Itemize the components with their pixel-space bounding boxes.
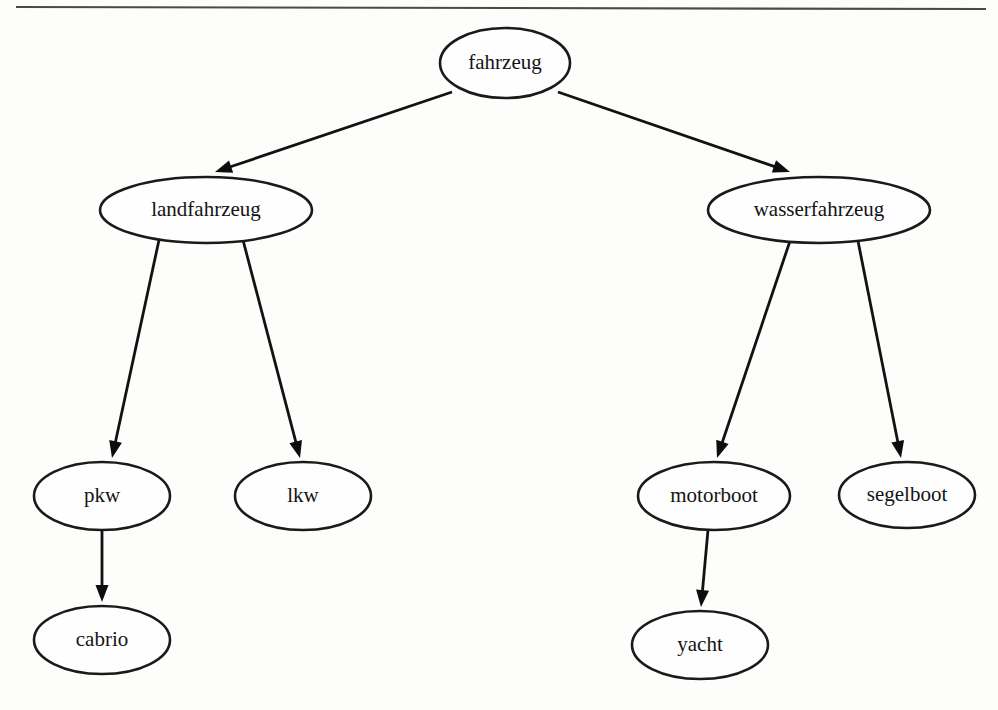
node-wasserfahrzeug[interactable]: wasserfahrzeug — [708, 177, 930, 243]
node-label: cabrio — [76, 627, 128, 651]
edge-line — [243, 240, 296, 444]
node-yacht[interactable]: yacht — [632, 611, 768, 679]
node-cabrio[interactable]: cabrio — [34, 606, 170, 674]
arrow-head-icon — [96, 585, 109, 602]
edge-line — [228, 92, 452, 168]
node-label: landfahrzeug — [151, 197, 261, 221]
arrow-head-icon — [891, 440, 904, 458]
edge-line — [558, 92, 777, 167]
diagram-page: fahrzeuglandfahrzeugwasserfahrzeugpkwlkw… — [0, 0, 998, 710]
top-rule — [16, 7, 986, 9]
nodes-layer: fahrzeuglandfahrzeugwasserfahrzeugpkwlkw… — [34, 28, 975, 679]
edge-landfahrzeug-to-pkw — [109, 240, 159, 458]
node-label: pkw — [84, 483, 121, 507]
taxonomy-diagram: fahrzeuglandfahrzeugwasserfahrzeugpkwlkw… — [0, 0, 998, 710]
arrow-head-icon — [772, 160, 790, 172]
arrow-head-icon — [289, 440, 302, 458]
arrow-head-icon — [215, 160, 233, 172]
node-pkw[interactable]: pkw — [34, 462, 170, 530]
rules-layer — [16, 7, 986, 9]
edge-wasserfahrzeug-to-motorboot — [716, 241, 790, 458]
edge-pkw-to-cabrio — [96, 530, 109, 602]
edge-landfahrzeug-to-lkw — [243, 240, 302, 458]
node-label: segelboot — [867, 482, 948, 506]
node-lkw[interactable]: lkw — [235, 462, 371, 530]
node-label: wasserfahrzeug — [754, 197, 885, 221]
arrow-head-icon — [716, 440, 728, 458]
edge-line — [858, 241, 898, 444]
arrow-head-icon — [696, 589, 709, 607]
edge-line — [721, 241, 790, 445]
node-label: fahrzeug — [468, 50, 542, 74]
node-label: motorboot — [670, 483, 758, 507]
node-label: lkw — [287, 483, 319, 507]
node-landfahrzeug[interactable]: landfahrzeug — [100, 177, 312, 243]
edge-fahrzeug-to-landfahrzeug — [215, 92, 452, 173]
edge-wasserfahrzeug-to-segelboot — [858, 241, 904, 458]
node-segelboot[interactable]: segelboot — [839, 462, 975, 528]
arrow-head-icon — [109, 440, 122, 458]
node-fahrzeug[interactable]: fahrzeug — [440, 28, 570, 98]
node-label: yacht — [677, 632, 723, 656]
edge-line — [702, 530, 708, 593]
edges-layer — [96, 92, 905, 607]
edge-line — [115, 240, 159, 444]
edge-motorboot-to-yacht — [696, 530, 709, 607]
node-motorboot[interactable]: motorboot — [638, 462, 790, 530]
edge-fahrzeug-to-wasserfahrzeug — [558, 92, 790, 173]
